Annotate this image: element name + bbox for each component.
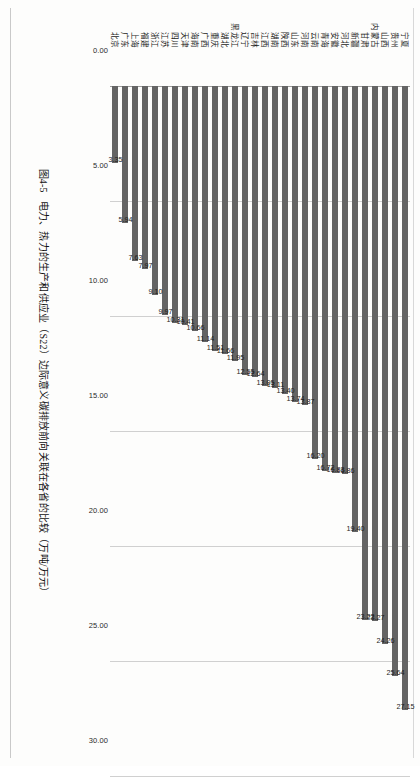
value-axis-tick-label: 25.00 (89, 621, 108, 630)
bar-row: 19.40 (352, 86, 357, 776)
bar-value-label: 9.10 (148, 287, 163, 296)
bar-row: 7.63 (132, 86, 137, 776)
bar-value-label: 5.94 (118, 215, 133, 224)
value-axis-tick-label: 15.00 (89, 391, 108, 400)
bar-row: 16.86 (342, 86, 347, 776)
bar-value-label: 11.14 (196, 334, 214, 343)
category-label: 贵州 (390, 32, 401, 48)
bar-row: 16.83 (332, 86, 337, 776)
bar (122, 86, 127, 223)
bar (372, 86, 377, 621)
category-label: 云南 (310, 32, 321, 48)
bar-value-label: 3.35 (108, 155, 123, 164)
bar-value-label: 27.15 (396, 702, 415, 711)
value-axis-tick-label: 10.00 (89, 276, 108, 285)
bar (262, 86, 267, 386)
bar-row: 10.66 (192, 86, 197, 776)
category-label: 福建 (140, 32, 151, 48)
category-label: 广西 (200, 32, 211, 48)
bar-row: 23.27 (372, 86, 377, 776)
category-label: 浙江 (150, 32, 161, 48)
category-label: 北京 (110, 32, 121, 48)
chart-plot-area: 0.005.0010.0015.0020.0025.0030.00 27.152… (70, 20, 410, 746)
category-label: 广东 (120, 32, 131, 48)
category-label: 山西 (380, 32, 391, 48)
bar (182, 86, 187, 325)
bar (302, 86, 307, 405)
bar-row: 16.20 (312, 86, 317, 776)
bar-row: 7.97 (142, 86, 147, 776)
category-label: 黑龙江 (230, 23, 241, 48)
bar-row: 12.55 (242, 86, 247, 776)
category-axis: 宁夏贵州山西内蒙古甘肃新疆河北安徽青海云南河南山东陕西湖南江西吉林辽宁黑龙江湖北… (110, 20, 410, 50)
bar-row: 13.40 (282, 86, 287, 776)
bar-value-label: 9.97 (158, 307, 173, 316)
category-label: 青海 (320, 32, 331, 48)
category-label: 重庆 (210, 32, 221, 48)
bar-value-label: 24.26 (376, 636, 395, 645)
bar (292, 86, 297, 402)
bar-row: 10.31 (172, 86, 177, 776)
bar-row: 3.35 (112, 86, 117, 776)
category-label: 河北 (340, 32, 351, 48)
category-label: 辽宁 (240, 32, 251, 48)
bar-row: 11.14 (202, 86, 207, 776)
bar-row: 11.66 (222, 86, 227, 776)
category-label: 内蒙古 (370, 23, 381, 48)
bar-row: 11.95 (232, 86, 237, 776)
bar (142, 86, 147, 269)
bar (342, 86, 347, 474)
bar-row: 11.51 (212, 86, 217, 776)
bar-value-label: 16.20 (306, 451, 325, 460)
bar-row: 9.10 (152, 86, 157, 776)
bar-row: 13.05 (262, 86, 267, 776)
bar (332, 86, 337, 473)
bar-row: 12.64 (252, 86, 257, 776)
value-axis-tick-label: 30.00 (89, 736, 108, 745)
bar-value-label: 13.05 (256, 378, 275, 387)
bar (222, 86, 227, 354)
category-label: 江西 (260, 32, 271, 48)
bar (232, 86, 237, 361)
bar-value-label: 25.64 (386, 668, 405, 677)
bar (112, 86, 117, 163)
category-label: 山东 (290, 32, 301, 48)
bar-row: 13.87 (302, 86, 307, 776)
bar-value-label: 23.22 (356, 612, 375, 621)
bar (282, 86, 287, 394)
bar-row: 13.11 (272, 86, 277, 776)
category-label: 宁夏 (400, 32, 411, 48)
bar-row: 23.22 (362, 86, 367, 776)
category-label: 湖南 (270, 32, 281, 48)
bar-row: 16.72 (322, 86, 327, 776)
bar (322, 86, 327, 471)
category-label: 天津 (180, 32, 191, 48)
bar-row: 24.26 (382, 86, 387, 776)
bar-value-label: 16.72 (316, 463, 335, 472)
category-label: 陕西 (280, 32, 291, 48)
bar-value-label: 11.51 (206, 343, 224, 352)
bar-row: 5.94 (122, 86, 127, 776)
bar-value-label: 12.55 (236, 367, 255, 376)
category-label: 吉林 (250, 32, 261, 48)
bar (242, 86, 247, 375)
category-label: 海南 (190, 32, 201, 48)
bar-row: 9.97 (162, 86, 167, 776)
bar (152, 86, 157, 295)
category-label: 新疆 (350, 32, 361, 48)
value-axis-tick-label: 5.00 (93, 161, 108, 170)
bar (212, 86, 217, 351)
bar (382, 86, 387, 644)
bar (252, 86, 257, 377)
bar (362, 86, 367, 620)
bar-row: 13.74 (292, 86, 297, 776)
bar-row: 25.64 (392, 86, 397, 776)
category-label: 江苏 (160, 32, 171, 48)
bar-value-label: 10.31 (166, 315, 185, 324)
bar-value-label: 7.63 (128, 253, 143, 262)
category-label: 安徽 (330, 32, 341, 48)
category-label: 上海 (130, 32, 141, 48)
